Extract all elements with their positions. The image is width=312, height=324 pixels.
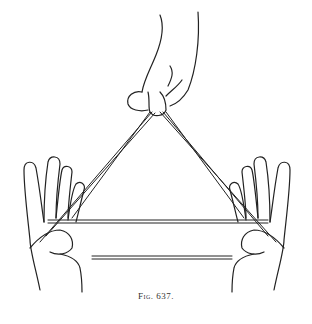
string-figure-illustration: Fig. 637.	[0, 0, 312, 324]
figure-caption: Fig. 637.	[0, 291, 312, 301]
illustration-drawing	[0, 0, 312, 324]
left-hand	[24, 157, 84, 292]
top-hand	[128, 12, 199, 116]
